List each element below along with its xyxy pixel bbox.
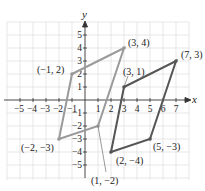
x-tick: 1 xyxy=(96,104,101,114)
x-tick: 5 xyxy=(148,104,153,114)
y-tick: 4 xyxy=(77,43,82,53)
y-tick: 5 xyxy=(77,30,82,40)
point-label: (3, 4) xyxy=(128,37,150,49)
point-label: (1, −2) xyxy=(91,175,118,187)
y-tick: −4 xyxy=(72,147,82,157)
x-tick: 3 xyxy=(122,104,127,114)
point-label: (3, 1) xyxy=(123,66,145,78)
x-tick: −4 xyxy=(27,104,37,114)
y-axis-label: y xyxy=(81,8,87,20)
y-tick: −5 xyxy=(72,160,82,170)
point-label: (−2, −3) xyxy=(21,142,54,154)
x-tick: −5 xyxy=(14,104,24,114)
x-tick: −2 xyxy=(53,104,63,114)
coordinate-plane: −5 −4 −3 −2 −1 1 2 3 4 5 6 7 5 4 3 2 1 −… xyxy=(0,0,205,191)
x-tick: −3 xyxy=(40,104,50,114)
x-tick: 4 xyxy=(135,104,140,114)
x-axis-label: x xyxy=(191,93,197,105)
x-tick-labels: −5 −4 −3 −2 −1 1 2 3 4 5 6 7 xyxy=(14,104,179,114)
original-parallelogram xyxy=(59,48,124,139)
point-label: (5, −3) xyxy=(153,141,180,153)
y-tick: 1 xyxy=(77,82,82,92)
y-tick: −2 xyxy=(72,121,82,131)
point-label: (7, 3) xyxy=(181,49,203,61)
y-tick: 3 xyxy=(77,56,82,66)
point-label: (−1, 2) xyxy=(37,64,64,76)
x-tick: 2 xyxy=(109,104,114,114)
y-tick: −1 xyxy=(72,108,82,118)
x-tick: 7 xyxy=(174,104,179,114)
point-label: (2, −4) xyxy=(116,155,143,167)
x-axis-arrow-icon xyxy=(185,98,191,103)
y-tick: −3 xyxy=(72,134,82,144)
